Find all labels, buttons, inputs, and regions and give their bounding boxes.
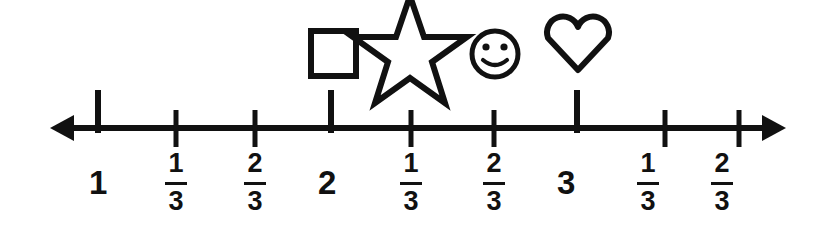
fraction-denominator: 3 [165,188,187,216]
fraction-bar [165,182,187,185]
tick-label-3-2-3: 2 3 [711,150,733,215]
fraction-bar [637,182,659,185]
tick-label-1: 1 [89,166,107,199]
fraction-denominator: 3 [711,188,733,216]
fraction-numerator: 2 [244,150,266,178]
number-line-figure: 1 1 3 2 3 2 1 3 2 3 3 1 3 2 3 [0,0,817,240]
heart-icon [547,17,609,70]
fraction-bar [483,182,505,185]
arrow-left-icon [50,115,74,141]
arrow-right-icon [762,115,786,141]
tick-label-2-1-3: 1 3 [400,150,422,215]
fraction-numerator: 2 [483,150,505,178]
fraction-numerator: 1 [165,150,187,178]
fraction-denominator: 3 [637,188,659,216]
fraction-bar [244,182,266,185]
fraction-bar [400,182,422,185]
star-icon [353,0,467,103]
fraction-numerator: 2 [711,150,733,178]
tick-label-3: 3 [557,166,575,199]
tick-label-1-2-3: 2 3 [244,150,266,215]
fraction-denominator: 3 [244,188,266,216]
tick-label-2-2-3: 2 3 [483,150,505,215]
tick-label-2: 2 [318,166,336,199]
fraction-denominator: 3 [483,188,505,216]
fraction-numerator: 1 [637,150,659,178]
fraction-numerator: 1 [400,150,422,178]
tick-label-3-1-3: 1 3 [637,150,659,215]
tick-label-1-1-3: 1 3 [165,150,187,215]
fraction-denominator: 3 [400,188,422,216]
fraction-bar [711,182,733,185]
smiley-icon [472,31,518,77]
